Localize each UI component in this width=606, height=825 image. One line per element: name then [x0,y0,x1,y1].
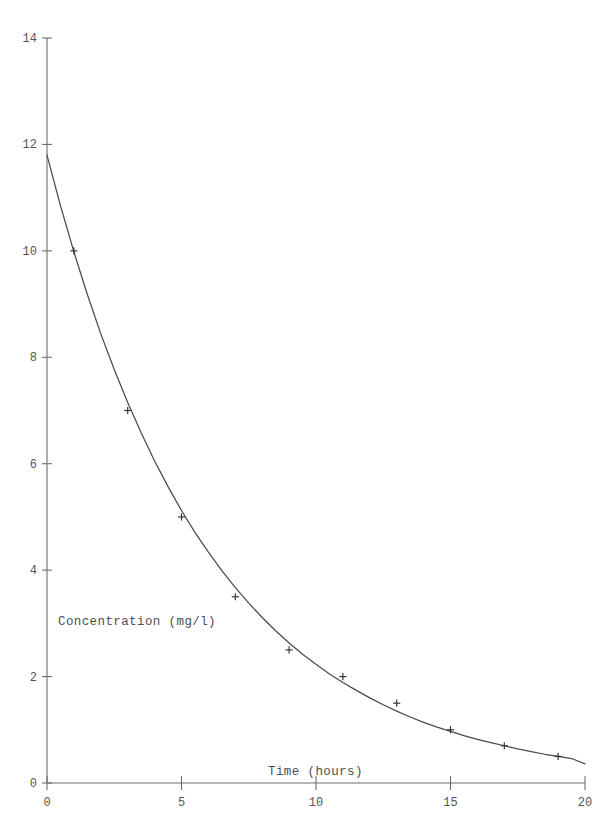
data-point-marker [393,700,400,707]
concentration-vs-time-chart: 02468101214 05101520 Time (hours) Concen… [0,0,606,825]
figure-panel: 02468101214 05101520 Time (hours) Concen… [0,0,606,825]
data-point-marker [70,247,77,254]
x-tick-label: 5 [178,796,185,810]
x-tick-label: 10 [309,796,323,810]
y-tick-label: 14 [23,32,37,46]
x-tick-label: 20 [578,796,592,810]
data-point-marker [501,742,508,749]
data-point-marker [339,673,346,680]
y-tick-label: 6 [30,458,37,472]
y-axis-title: Concentration (mg/l) [58,615,216,629]
fitted-decay-curve [47,155,585,764]
data-point-marker [286,646,293,653]
y-axis-ticks: 02468101214 [23,32,52,791]
y-tick-label: 4 [30,564,37,578]
x-axis-ticks: 05101520 [43,776,592,810]
data-point-marker [555,753,562,760]
y-tick-label: 2 [30,671,37,685]
data-point-markers [70,247,561,760]
data-point-marker [232,593,239,600]
x-tick-label: 0 [43,796,50,810]
y-tick-label: 8 [30,351,37,365]
x-axis-title: Time (hours) [268,765,363,779]
x-tick-label: 15 [443,796,457,810]
y-tick-label: 12 [23,138,37,152]
y-tick-label: 10 [23,245,37,259]
y-tick-label: 0 [30,777,37,791]
